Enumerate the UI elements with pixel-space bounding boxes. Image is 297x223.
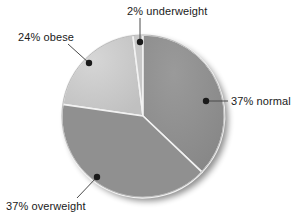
callout-dot-overweight — [94, 174, 100, 180]
leader-line-overweight — [77, 177, 97, 198]
slice-label-overweight: 37% overweight — [6, 200, 86, 212]
callout-dot-underweight — [137, 39, 143, 45]
slice-label-underweight: 2% underweight — [127, 5, 207, 17]
pie-slice-obese[interactable] — [63, 35, 143, 116]
leader-line-obese — [68, 44, 89, 63]
slice-label-normal: 37% normal — [231, 95, 291, 107]
callout-dot-obese — [86, 60, 92, 66]
slice-label-obese: 24% obese — [18, 31, 74, 43]
callout-dot-normal — [203, 98, 209, 104]
